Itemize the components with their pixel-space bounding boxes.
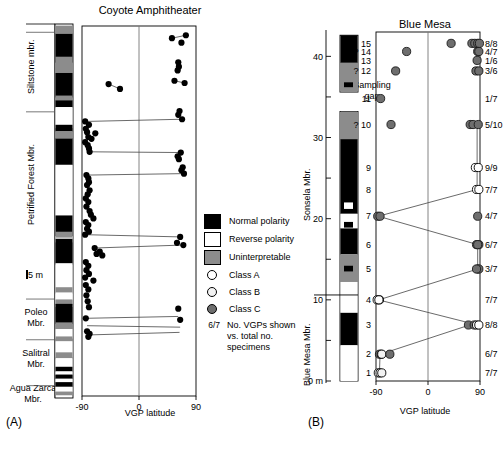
polarity-band	[56, 57, 73, 73]
polarity-band	[56, 125, 73, 132]
data-point-class-c	[386, 350, 394, 358]
site-number-label: 15	[361, 39, 371, 49]
legend-item-class-b: Class B	[204, 283, 300, 300]
normal-polarity-swatch-icon	[204, 214, 221, 229]
polarity-band	[56, 239, 73, 265]
site-ratio-label: 1/7	[485, 94, 498, 104]
data-point	[86, 304, 92, 310]
data-point-class-c	[376, 212, 384, 220]
connector-line	[381, 325, 470, 354]
legend-label-normal: Normal polarity	[229, 216, 290, 226]
y-tick-label: 10	[313, 295, 323, 305]
x-tick-label: -90	[369, 387, 382, 397]
x-tick-label: -90	[75, 402, 88, 412]
class-c-circle-icon	[207, 304, 217, 314]
y-tick-label: 20	[313, 214, 323, 224]
site-ratio-label: 1/6	[485, 56, 498, 66]
polarity-band	[56, 336, 73, 341]
site-ratio-label: 8/8	[485, 39, 498, 49]
polarity-band	[56, 131, 73, 138]
connector-lines-coyote	[85, 35, 186, 335]
data-point-class-c	[472, 265, 480, 273]
polarity-band	[56, 375, 73, 379]
panel-blue-mesa: Blue Mesa Sonsela Mbr. Blue Mesa Mbr. Sa…	[300, 0, 503, 451]
polarity-band	[56, 100, 73, 107]
connector-line	[87, 326, 180, 327]
reverse-polarity-swatch-icon	[204, 232, 221, 247]
site-ratio-label: 6/7	[485, 240, 498, 250]
legend-label-uninterpretable: Uninterpretable	[229, 252, 291, 262]
polarity-band	[56, 367, 73, 372]
panel-letter-a: (A)	[6, 415, 22, 429]
connector-line	[90, 152, 181, 153]
data-point-class-b	[378, 350, 386, 358]
polarity-band	[56, 352, 73, 358]
data-point	[93, 251, 99, 257]
y-tick-label: 0 m	[308, 376, 323, 386]
data-point	[176, 156, 182, 162]
data-point	[85, 334, 91, 340]
data-point	[179, 116, 185, 122]
polarity-band	[56, 304, 73, 324]
data-point	[83, 315, 89, 321]
data-point	[83, 292, 89, 298]
data-point	[99, 252, 105, 258]
data-point-class-c	[474, 212, 482, 220]
xaxis-label-blue-mesa: VGP latitude	[370, 406, 480, 416]
polarity-band	[56, 232, 73, 238]
site-number-label: 5	[366, 264, 371, 274]
site-number-label: 2	[366, 349, 371, 359]
data-point	[169, 35, 175, 41]
site-number-label: 1	[366, 368, 371, 378]
x-tick-label: 0	[425, 387, 430, 397]
polarity-band	[56, 294, 73, 301]
polarity-band	[56, 392, 73, 396]
data-point	[117, 86, 123, 92]
polarity-band	[56, 379, 73, 383]
polarity-band	[344, 202, 353, 208]
data-point	[180, 242, 186, 248]
legend: Normal polarity Reverse polarity Uninter…	[204, 212, 300, 353]
data-point-class-c	[403, 47, 411, 55]
legend-ratio-key: 6/7	[204, 320, 220, 353]
data-point	[106, 81, 112, 87]
site-number-label: 13	[361, 56, 371, 66]
polarity-band	[56, 96, 73, 101]
connector-line	[85, 235, 180, 237]
polarity-band	[56, 387, 73, 392]
data-point	[85, 286, 91, 292]
blue-mesa-plot-svg: 0 m1020304017/726/738/847/753/766/774/78…	[300, 0, 503, 451]
site-number-label: 9	[366, 163, 371, 173]
connector-line	[86, 316, 178, 318]
site-ratio-label: 8/8	[485, 320, 498, 330]
site-number-label: 3	[366, 320, 371, 330]
polarity-band	[56, 138, 73, 165]
legend-item-class-a: Class A	[204, 266, 300, 283]
data-point	[178, 40, 184, 46]
data-point-class-c	[392, 67, 400, 75]
site-ratio-label: 3/7	[485, 264, 498, 274]
polarity-band	[56, 371, 73, 375]
legend-label-reverse: Reverse polarity	[229, 234, 294, 244]
legend-item-reverse: Reverse polarity	[204, 230, 300, 248]
data-point-class-c	[475, 67, 483, 75]
polarity-band	[341, 345, 358, 381]
site-ratio-label: 5/10	[485, 120, 503, 130]
site-ratio-label: 6/7	[485, 349, 498, 359]
site-ratio-label: 7/7	[485, 368, 498, 378]
y-tick-label: 40	[313, 52, 323, 62]
legend-ratio-description: No. VGPs shown vs. total no. specimens	[227, 320, 296, 353]
polarity-band	[56, 287, 73, 292]
xaxis-label-coyote: VGP latitude	[95, 408, 205, 418]
data-point	[174, 240, 180, 246]
site-ratio-label: 7/7	[485, 185, 498, 195]
data-point-class-c	[474, 241, 482, 249]
connector-line	[85, 119, 182, 121]
site-number-label: ? 12	[353, 66, 371, 76]
class-a-circle-icon	[207, 270, 217, 280]
data-point-class-c	[474, 120, 482, 128]
data-point	[182, 80, 188, 86]
data-point	[90, 277, 96, 283]
data-point	[177, 317, 183, 323]
y-tick-label: 30	[313, 133, 323, 143]
